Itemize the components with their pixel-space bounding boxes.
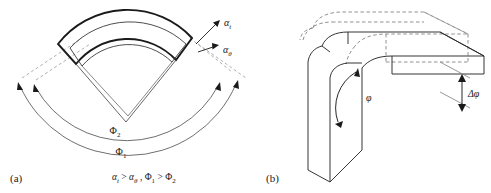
alpha-t-label: αt xyxy=(224,17,232,31)
panel-b-tag: (b) xyxy=(266,172,279,185)
phi-label: φ xyxy=(366,92,372,103)
outer-annular-sector xyxy=(58,10,192,64)
panel-b: φ Δφ (b) xyxy=(266,12,484,185)
phi-angle-arc xyxy=(335,68,360,128)
panel-a: αt αθ Φ2 Φ1 (a) αt > αθ , Φ1 > Φ2 xyxy=(10,10,246,185)
alpha-t-arrow xyxy=(196,20,220,44)
outer-sector-radial-legs xyxy=(76,60,176,122)
delta-phi-label: Δφ xyxy=(467,88,480,99)
inner-annular-sector xyxy=(70,22,186,66)
dashed-extension-lines-right xyxy=(190,38,246,78)
phi1-label: Φ1 xyxy=(116,146,127,160)
phi2-label: Φ2 xyxy=(110,125,121,139)
delta-phi-leader-lines xyxy=(440,62,470,108)
phi2-arrow-left xyxy=(33,84,39,92)
figure-root: αt αθ Φ2 Φ1 (a) αt > αθ , Φ1 > Φ2 xyxy=(0,0,491,193)
phi1-arrow-right xyxy=(233,80,239,89)
alpha-theta-arrow xyxy=(198,43,219,52)
deformed-beam-solid xyxy=(308,32,484,182)
phi2-measure-arc xyxy=(36,86,218,141)
panel-a-caption: αt > αθ , Φ1 > Φ2 xyxy=(112,172,176,185)
alpha-theta-label: αθ xyxy=(223,44,232,58)
phi1-arrow-left xyxy=(17,82,23,90)
delta-phi-dimension xyxy=(458,74,466,112)
inner-sector-radial-legs xyxy=(82,62,172,116)
panel-a-tag: (a) xyxy=(10,172,23,185)
